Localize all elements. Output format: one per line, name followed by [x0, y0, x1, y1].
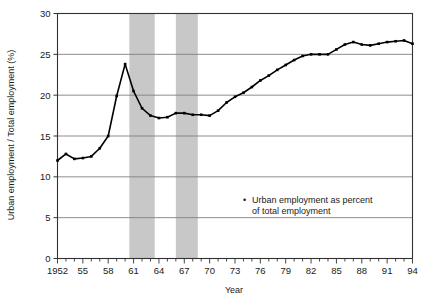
x-tick-label: 91 — [382, 265, 393, 276]
data-point-marker — [90, 155, 93, 158]
data-point-marker — [386, 41, 389, 44]
x-tick-label: 76 — [255, 265, 266, 276]
data-point-marker — [234, 96, 237, 99]
data-point-marker — [335, 48, 338, 51]
data-point-marker — [225, 101, 228, 104]
data-point-marker — [175, 112, 178, 115]
legend-label-line2: of total employment — [252, 206, 331, 216]
data-point-marker — [268, 74, 271, 77]
data-point-marker — [251, 86, 254, 89]
x-tick-label: 55 — [78, 265, 89, 276]
y-tick-label: 0 — [45, 253, 50, 264]
data-point-marker — [242, 91, 245, 94]
x-axis-ticks — [58, 259, 413, 264]
data-point-marker — [132, 90, 135, 93]
data-point-marker — [293, 59, 296, 62]
x-tick-label: 94 — [407, 265, 418, 276]
data-point-marker — [191, 113, 194, 116]
x-tick-label: 82 — [306, 265, 317, 276]
data-point-marker — [284, 64, 287, 67]
x-tick-label: 1952 — [47, 265, 68, 276]
x-tick-label: 73 — [230, 265, 241, 276]
series-line — [58, 40, 413, 160]
x-tick-label: 88 — [356, 265, 367, 276]
data-point-marker — [276, 69, 279, 72]
y-axis-title: Urban employment / Total employment (%) — [6, 50, 16, 220]
data-point-marker — [82, 157, 85, 160]
x-axis-title: Year — [225, 285, 243, 295]
data-point-marker — [344, 43, 347, 46]
x-tick-label: 61 — [128, 265, 139, 276]
data-point-marker — [403, 39, 406, 42]
x-tick-label: 85 — [331, 265, 342, 276]
data-point-marker — [217, 109, 220, 112]
data-point-marker — [318, 53, 321, 56]
y-axis-tick-labels: 051015202530 — [40, 8, 51, 264]
x-tick-label: 67 — [179, 265, 190, 276]
data-point-marker — [115, 95, 118, 98]
data-point-marker — [166, 116, 169, 119]
x-axis-tick-labels: 19525558616467707376798285889194 — [47, 265, 418, 276]
data-point-marker — [411, 42, 414, 45]
data-point-marker — [107, 135, 110, 138]
data-point-marker — [394, 40, 397, 43]
data-series — [56, 39, 414, 162]
data-point-marker — [141, 107, 144, 110]
data-point-marker — [158, 117, 161, 120]
x-tick-label: 58 — [103, 265, 114, 276]
data-point-marker — [369, 44, 372, 47]
data-point-marker — [259, 79, 262, 82]
y-axis-ticks — [54, 14, 58, 259]
data-point-marker — [310, 53, 313, 56]
data-point-marker — [208, 114, 211, 117]
data-point-marker — [73, 158, 76, 161]
legend-dot-icon: • — [243, 195, 246, 205]
y-tick-label: 25 — [40, 49, 51, 60]
y-tick-label: 15 — [40, 131, 51, 142]
data-point-marker — [200, 113, 203, 116]
data-point-marker — [149, 114, 152, 117]
x-tick-label: 64 — [154, 265, 165, 276]
y-tick-label: 10 — [40, 171, 51, 182]
y-tick-label: 20 — [40, 90, 51, 101]
x-tick-label: 79 — [280, 265, 291, 276]
data-point-marker — [360, 43, 363, 46]
data-point-marker — [301, 55, 304, 58]
data-point-marker — [124, 63, 127, 66]
chart-legend: • Urban employment as percent of total e… — [243, 195, 373, 216]
data-point-marker — [327, 53, 330, 56]
data-point-marker — [65, 153, 68, 156]
data-point-marker — [377, 42, 380, 45]
x-tick-label: 70 — [204, 265, 215, 276]
legend-label-line1: Urban employment as percent — [252, 195, 373, 205]
employment-line-chart: 19525558616467707376798285889194 0510152… — [0, 0, 433, 306]
data-point-marker — [56, 159, 59, 162]
chart-figure: 19525558616467707376798285889194 0510152… — [0, 0, 433, 306]
data-point-marker — [352, 41, 355, 44]
y-tick-label: 30 — [40, 8, 51, 19]
y-tick-label: 5 — [45, 212, 50, 223]
chart-page: 19525558616467707376798285889194 0510152… — [0, 0, 433, 306]
data-point-marker — [98, 147, 101, 150]
data-point-marker — [183, 112, 186, 115]
